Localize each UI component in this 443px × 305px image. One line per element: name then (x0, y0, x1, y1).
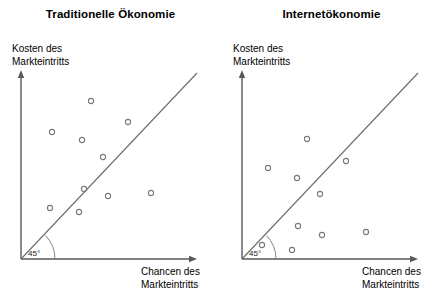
data-point (88, 98, 93, 103)
data-point (125, 119, 130, 124)
comparison-figure: Traditionelle Ökonomie Kosten des Markte… (0, 0, 443, 305)
data-point (105, 193, 110, 198)
y-axis-arrowhead-icon (239, 70, 245, 78)
angle-arc (267, 236, 277, 260)
y-axis-arrowhead-icon (18, 70, 24, 78)
plot-area-traditional: 45° (0, 0, 221, 305)
reference-line-45deg (21, 73, 197, 259)
data-point (265, 165, 270, 170)
x-axis-arrowhead-icon (410, 256, 418, 262)
data-point (295, 223, 300, 228)
data-point (79, 137, 84, 142)
data-point (294, 175, 299, 180)
data-point (363, 229, 368, 234)
data-point (289, 247, 294, 252)
data-point (148, 190, 153, 195)
data-point (100, 154, 105, 159)
data-point (304, 136, 309, 141)
data-point (343, 158, 348, 163)
scatter-points-traditional (47, 98, 153, 214)
angle-annotation-label: 45° (28, 249, 40, 258)
data-point (81, 186, 86, 191)
panel-internet-economy: Internetökonomie Kosten des Markteintrit… (221, 0, 442, 305)
data-point (76, 209, 81, 214)
scatter-points-internet (259, 136, 368, 252)
angle-arc (46, 236, 56, 260)
data-point (319, 232, 324, 237)
data-point (49, 129, 54, 134)
data-point (47, 205, 52, 210)
panel-traditional-economy: Traditionelle Ökonomie Kosten des Markte… (0, 0, 221, 305)
data-point (317, 191, 322, 196)
plot-area-internet: 45° (221, 0, 442, 305)
x-axis-arrowhead-icon (189, 256, 197, 262)
angle-annotation-label: 45° (249, 249, 261, 258)
reference-line-45deg (242, 73, 418, 259)
data-point (259, 242, 264, 247)
